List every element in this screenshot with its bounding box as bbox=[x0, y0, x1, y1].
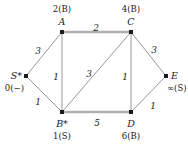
node-distance-D: 6(B) bbox=[122, 132, 140, 141]
node-distance-C: 4(B) bbox=[122, 5, 140, 14]
node-label-D: D bbox=[127, 119, 135, 129]
graph-node-C bbox=[129, 30, 133, 34]
node-label-S: S* bbox=[11, 71, 22, 81]
graph-node-B bbox=[60, 110, 64, 114]
edge-weight-D-E: 1 bbox=[150, 102, 156, 111]
node-distance-S: 0(−) bbox=[5, 84, 24, 93]
edge-weight-A-C: 2 bbox=[93, 24, 99, 33]
node-label-B: B* bbox=[56, 119, 68, 129]
graph-node-E bbox=[164, 74, 168, 78]
edges-layer bbox=[26, 32, 166, 112]
graph-node-D bbox=[129, 110, 133, 114]
node-distance-B: 1(S) bbox=[53, 132, 71, 141]
graph-figure: 312135131S*0(−)A2(B)C4(B)B*1(S)D6(B)E∞(S… bbox=[0, 0, 188, 145]
graph-node-S bbox=[24, 74, 28, 78]
node-distance-E: ∞(S) bbox=[167, 84, 187, 93]
node-label-C: C bbox=[127, 17, 134, 27]
node-label-A: A bbox=[59, 17, 66, 27]
edge-weight-B-C: 3 bbox=[86, 70, 92, 79]
graph-edge-C-E bbox=[131, 32, 166, 76]
edge-weight-C-D: 1 bbox=[122, 73, 128, 82]
edge-weight-S-B: 1 bbox=[35, 98, 41, 107]
graph-node-A bbox=[60, 30, 64, 34]
node-label-E: E bbox=[171, 71, 178, 81]
edge-weight-C-E: 3 bbox=[151, 46, 157, 55]
graph-edge-B-C bbox=[62, 32, 131, 112]
graph-edge-S-A bbox=[26, 32, 62, 76]
edge-weight-S-A: 3 bbox=[35, 47, 41, 56]
edge-weight-A-B: 1 bbox=[53, 73, 59, 82]
edge-weight-B-D: 5 bbox=[94, 119, 100, 128]
node-distance-A: 2(B) bbox=[53, 5, 71, 14]
graph-edge-D-E bbox=[131, 76, 166, 112]
